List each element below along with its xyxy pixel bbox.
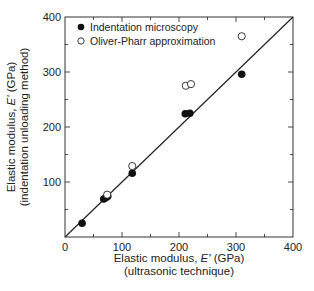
x-axis-title: Elastic modulus, E' (GPa) xyxy=(114,252,245,264)
x-axis-subtitle: (ultrasonic technique) xyxy=(124,265,234,277)
y-tick-label: 400 xyxy=(43,11,61,23)
x-tick-label: 0 xyxy=(62,241,68,253)
x-tick-label: 400 xyxy=(284,241,302,253)
data-points xyxy=(78,33,245,227)
filled-circle-marker-icon xyxy=(78,24,85,31)
legend-label-indentation-microscopy: Indentation microscopy xyxy=(90,21,199,33)
legend-label-oliver-pharr: Oliver-Pharr approximation xyxy=(90,35,216,47)
y-tick-label: 100 xyxy=(43,176,61,188)
filled-data-point xyxy=(186,109,194,117)
legend: Indentation microscopy Oliver-Pharr appr… xyxy=(78,21,216,47)
y-tick-label: 200 xyxy=(43,121,61,133)
scatter-chart: 0 100 200 300 400 100 200 300 400 Elasti… xyxy=(0,0,314,291)
y-axis-title: Elastic modulus, E' (GPa) xyxy=(5,61,17,192)
filled-data-point xyxy=(238,70,246,78)
open-data-point xyxy=(104,191,111,198)
y-axis-subtitle: (indentation unloading method) xyxy=(18,48,30,207)
filled-data-point xyxy=(78,219,86,227)
open-circle-marker-icon xyxy=(78,38,84,44)
open-data-point xyxy=(238,33,245,40)
y-tick-label: 300 xyxy=(43,66,61,78)
identity-line xyxy=(65,17,293,237)
filled-data-point xyxy=(128,169,136,177)
open-data-point xyxy=(187,81,194,88)
open-data-point xyxy=(129,162,136,169)
